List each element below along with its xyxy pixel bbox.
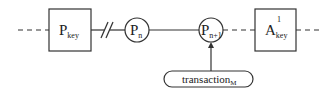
p-n1-label: Pn+1 [201, 22, 222, 38]
arrow-head-icon [208, 42, 214, 48]
diagram-lines [0, 0, 326, 93]
a-key-label: A1key [265, 22, 287, 38]
p-n-label: Pn [130, 22, 142, 38]
chain-diagram: Pkey Pn Pn+1 A1key transactionM [0, 0, 326, 93]
p-key-label: Pkey [59, 22, 79, 38]
transaction-label: transactionM [182, 74, 237, 85]
